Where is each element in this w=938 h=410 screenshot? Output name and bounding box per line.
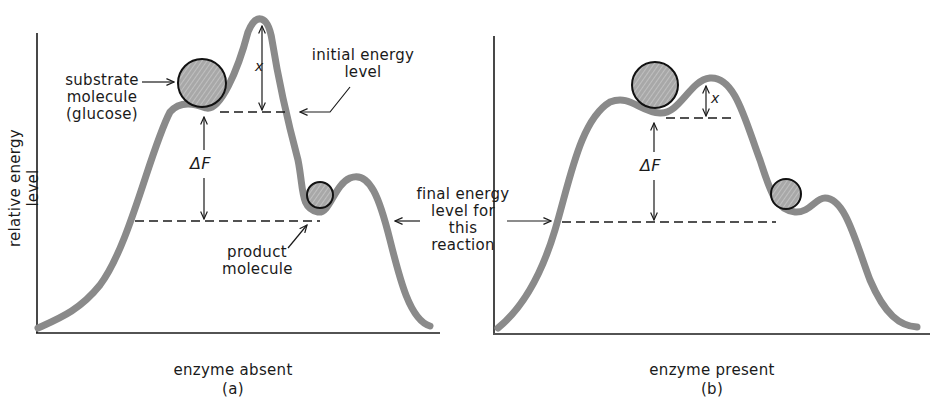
substrate-label-line2: molecule <box>62 89 142 106</box>
final-energy-label: final energy level for this reaction <box>410 186 516 254</box>
substrate-label: substrate molecule (glucose) <box>62 72 142 123</box>
x-label-a: x <box>255 58 264 75</box>
initial-energy-line2: level <box>298 64 428 81</box>
final-energy-line3: this <box>410 220 516 237</box>
panel-a-caption: enzyme absent (a) <box>153 362 313 398</box>
delta-f-text-a: ΔF <box>190 154 211 173</box>
x-label-b: x <box>711 90 720 107</box>
initial-energy-line1: initial energy <box>298 47 428 64</box>
final-energy-line4: reaction <box>410 237 516 254</box>
product-molecule-b <box>771 179 801 209</box>
initial-energy-label: initial energy level <box>298 47 428 81</box>
y-axis-label: relative energy level <box>6 108 42 268</box>
panel-a-letter: (a) <box>153 381 313 398</box>
final-energy-line2: level for <box>410 203 516 220</box>
product-molecule-a <box>307 182 333 208</box>
initial-level-pointer <box>300 87 350 112</box>
product-label-line1: product <box>222 244 292 261</box>
panel-b-letter: (b) <box>632 381 792 398</box>
substrate-label-line3: (glucose) <box>62 106 142 123</box>
product-label-line2: molecule <box>222 261 292 278</box>
panel-b-caption: enzyme present (b) <box>632 362 792 398</box>
delta-f-label-a: ΔF <box>190 155 211 172</box>
substrate-label-line1: substrate <box>62 72 142 89</box>
substrate-molecule-a <box>178 59 226 107</box>
panel-a-caption-text: enzyme absent <box>153 362 313 379</box>
substrate-molecule-b <box>632 62 678 108</box>
delta-f-label-b: ΔF <box>640 157 661 174</box>
panel-b-energy-curve <box>498 78 917 328</box>
final-energy-line1: final energy <box>410 186 516 203</box>
panel-b-caption-text: enzyme present <box>632 362 792 379</box>
product-label: product molecule <box>222 244 292 278</box>
delta-f-text-b: ΔF <box>640 156 661 175</box>
